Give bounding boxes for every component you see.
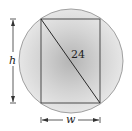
arrow-up-icon xyxy=(11,20,15,26)
geometry-diagram: 24 h w xyxy=(0,0,132,131)
width-dimension: w xyxy=(41,113,100,126)
width-label: w xyxy=(66,113,76,126)
arrow-down-icon xyxy=(11,96,15,102)
diagonal-label: 24 xyxy=(71,48,85,61)
height-label: h xyxy=(9,54,16,67)
arrow-right-icon xyxy=(93,118,99,122)
arrow-left-icon xyxy=(42,118,48,122)
height-dimension: h xyxy=(9,19,16,103)
